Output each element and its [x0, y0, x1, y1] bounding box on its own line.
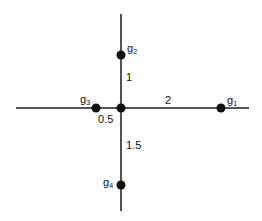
- label-g3: g3: [80, 93, 90, 106]
- node-g3: [92, 104, 101, 113]
- node-center: [117, 104, 126, 113]
- weight-g3: 0.5: [98, 113, 113, 125]
- node-g4: [117, 181, 126, 190]
- weight-g2: 1: [126, 71, 132, 83]
- node-g1: [217, 104, 226, 113]
- weight-g1: 2: [165, 94, 171, 106]
- label-g4: g4: [103, 176, 113, 189]
- node-g2: [117, 51, 126, 60]
- label-g1: g1: [227, 94, 237, 107]
- label-g2: g2: [127, 42, 137, 55]
- star-graph-diagram: g1 g2 g3 g4 1 2 0.5 1.5: [0, 0, 262, 221]
- weight-g4: 1.5: [126, 139, 141, 151]
